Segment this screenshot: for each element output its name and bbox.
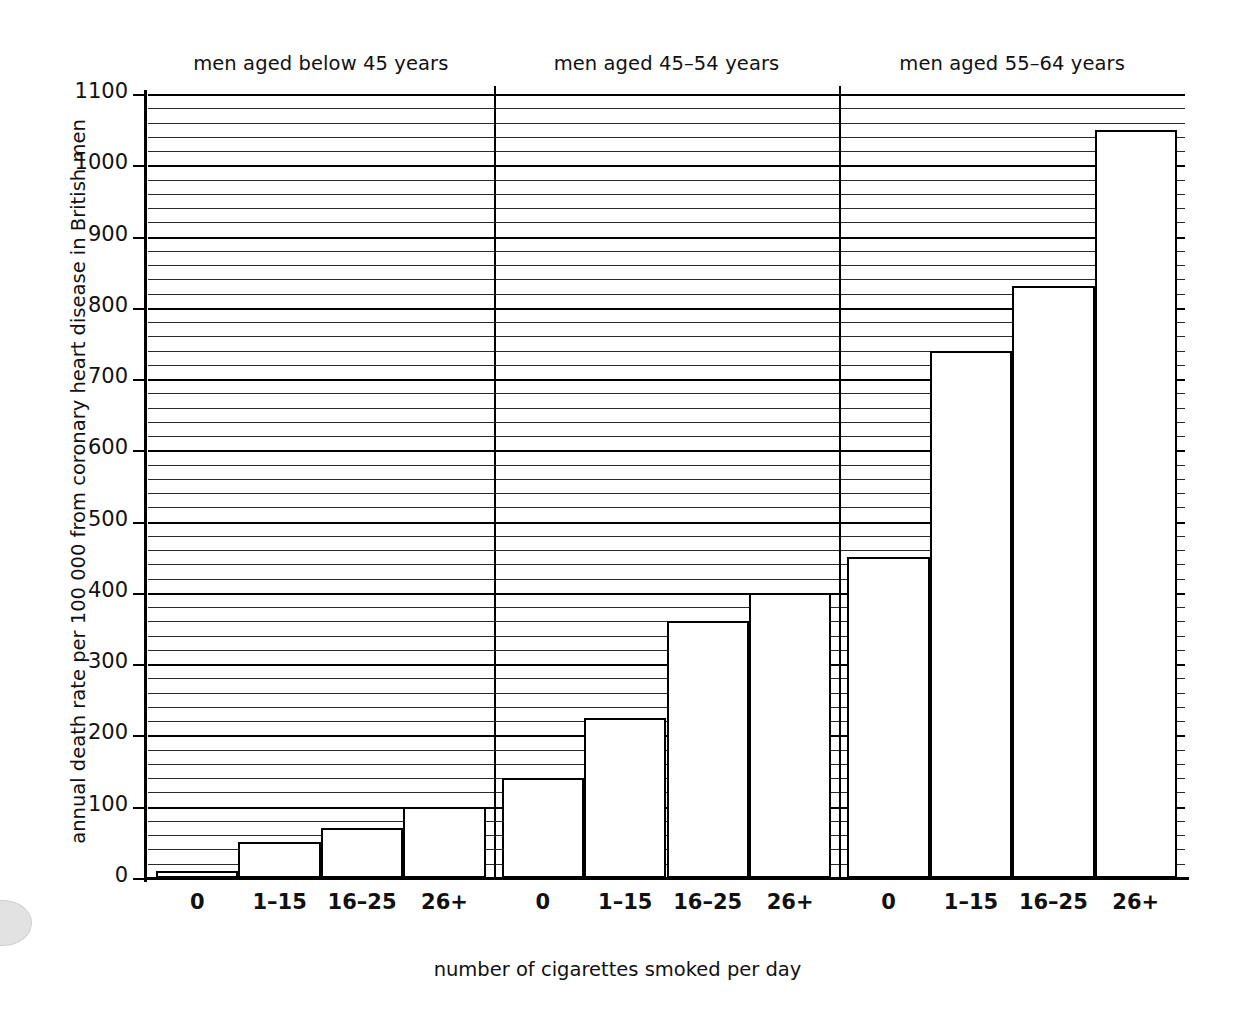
plot-area bbox=[148, 94, 1185, 878]
gridline-minor bbox=[148, 123, 1185, 124]
bar bbox=[584, 718, 666, 878]
gridline-minor bbox=[148, 265, 1185, 266]
y-axis-line bbox=[144, 90, 147, 882]
chart-figure: men aged below 45 years men aged 45–54 y… bbox=[0, 0, 1235, 1015]
y-tick-mark bbox=[133, 308, 147, 310]
bar bbox=[667, 621, 749, 878]
x-tick-label: 26+ bbox=[749, 890, 831, 914]
y-tick-label: 100 bbox=[8, 792, 128, 816]
y-axis-title: annual death rate per 100 000 from coron… bbox=[67, 82, 90, 882]
x-tick-label: 0 bbox=[156, 890, 238, 914]
gridline-minor bbox=[148, 251, 1185, 252]
y-tick-mark bbox=[133, 522, 147, 524]
x-tick-label: 16–25 bbox=[321, 890, 403, 914]
y-tick-label: 1100 bbox=[8, 79, 128, 103]
y-tick-mark bbox=[133, 379, 147, 381]
gridline-minor bbox=[148, 208, 1185, 209]
x-tick-label: 0 bbox=[502, 890, 584, 914]
bar bbox=[502, 778, 584, 878]
gridline-major bbox=[148, 165, 1185, 167]
gridline-minor bbox=[148, 180, 1185, 181]
bar bbox=[1095, 130, 1177, 878]
gridline-minor bbox=[148, 279, 1185, 280]
bar bbox=[749, 593, 831, 878]
y-tick-mark bbox=[133, 807, 147, 809]
y-tick-mark bbox=[133, 664, 147, 666]
y-tick-label: 500 bbox=[8, 507, 128, 531]
bar bbox=[238, 842, 320, 878]
y-tick-label: 900 bbox=[8, 222, 128, 246]
panel-title-55-64: men aged 55–64 years bbox=[839, 52, 1185, 75]
gridline-minor bbox=[148, 151, 1185, 152]
panel-title-45-54: men aged 45–54 years bbox=[494, 52, 840, 75]
x-tick-label: 26+ bbox=[1095, 890, 1177, 914]
gridline-major bbox=[148, 237, 1185, 239]
bar bbox=[847, 557, 929, 878]
x-tick-label: 1–15 bbox=[238, 890, 320, 914]
bar bbox=[321, 828, 403, 878]
y-tick-label: 300 bbox=[8, 649, 128, 673]
bar bbox=[1012, 286, 1094, 878]
y-tick-mark bbox=[133, 237, 147, 239]
gridline-minor bbox=[148, 108, 1185, 109]
gridline-major bbox=[148, 94, 1185, 96]
bar bbox=[403, 807, 485, 878]
x-tick-label: 26+ bbox=[403, 890, 485, 914]
y-tick-label: 800 bbox=[8, 293, 128, 317]
gridline-minor bbox=[148, 222, 1185, 223]
y-tick-mark bbox=[133, 735, 147, 737]
y-tick-mark bbox=[133, 450, 147, 452]
y-tick-label: 400 bbox=[8, 578, 128, 602]
x-tick-label: 16–25 bbox=[1012, 890, 1094, 914]
page-edge-artifact bbox=[0, 900, 32, 946]
y-tick-mark bbox=[133, 593, 147, 595]
y-tick-label: 600 bbox=[8, 435, 128, 459]
gridline-minor bbox=[148, 137, 1185, 138]
x-tick-label: 1–15 bbox=[930, 890, 1012, 914]
gridline-minor bbox=[148, 194, 1185, 195]
y-tick-mark bbox=[133, 165, 147, 167]
x-tick-label: 0 bbox=[847, 890, 929, 914]
y-tick-label: 0 bbox=[8, 863, 128, 887]
y-tick-label: 200 bbox=[8, 720, 128, 744]
bar bbox=[930, 351, 1012, 878]
y-tick-label: 700 bbox=[8, 364, 128, 388]
panel-divider bbox=[839, 86, 841, 880]
y-tick-label: 1000 bbox=[8, 150, 128, 174]
y-tick-mark bbox=[133, 878, 147, 880]
x-axis-title: number of cigarettes smoked per day bbox=[0, 958, 1235, 981]
x-tick-label: 16–25 bbox=[667, 890, 749, 914]
x-axis-line bbox=[144, 877, 1189, 880]
x-tick-label: 1–15 bbox=[584, 890, 666, 914]
panel-divider bbox=[494, 86, 496, 880]
y-tick-mark bbox=[133, 94, 147, 96]
panel-title-below-45: men aged below 45 years bbox=[148, 52, 494, 75]
